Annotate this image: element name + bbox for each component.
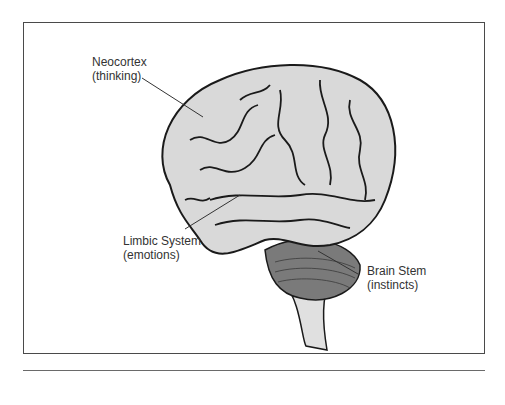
label-subtitle: (thinking)	[92, 69, 147, 83]
cerebellum-shape	[265, 239, 360, 299]
label-title: Neocortex	[92, 55, 147, 69]
cerebrum-shape	[162, 65, 395, 254]
brain-illustration	[0, 0, 505, 405]
label-limbic-system: Limbic System (emotions)	[123, 234, 201, 262]
label-neocortex: Neocortex (thinking)	[92, 55, 147, 83]
label-title: Brain Stem	[367, 264, 426, 278]
label-subtitle: (emotions)	[123, 248, 201, 262]
label-title: Limbic System	[123, 234, 201, 248]
label-brain-stem: Brain Stem (instincts)	[367, 264, 426, 292]
label-subtitle: (instincts)	[367, 278, 426, 292]
